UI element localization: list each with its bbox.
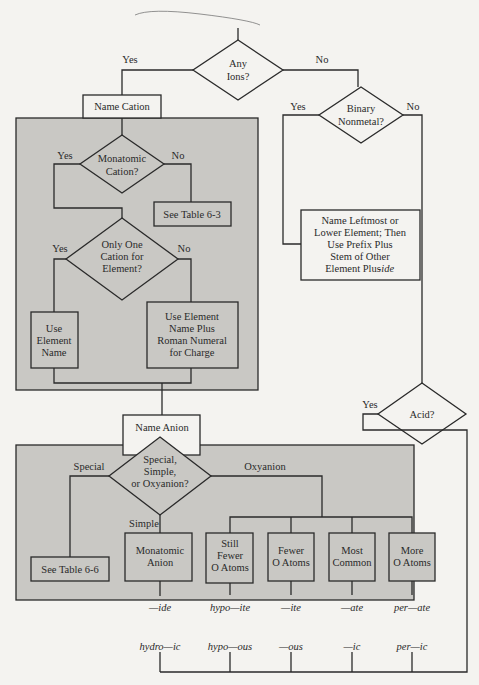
use-element-line-1: Use — [46, 323, 63, 334]
ide-suffix: —ide — [148, 602, 172, 613]
still-fewer-line-1: Still — [221, 538, 239, 549]
ic-acid: —ic — [343, 641, 361, 652]
any-ions-label-1: Any — [229, 58, 248, 69]
leftmost-line-3: Use Prefix Plus — [327, 239, 392, 250]
most-common-line-1: Most — [341, 545, 363, 556]
ate-suffix: —ate — [340, 602, 364, 613]
any-ions-label-2: Ions? — [227, 71, 250, 82]
use-roman-line-4: for Charge — [170, 347, 215, 358]
leftmost-line-5: Element Plus — [325, 263, 381, 274]
name-cation-label: Name Cation — [94, 101, 150, 112]
anion-type-line-1: Special, — [143, 454, 177, 465]
flowchart: Any Ions? Yes No Name Cation Monatomic C… — [0, 0, 479, 685]
monatomic-yes: Yes — [57, 150, 72, 161]
name-anion-label: Name Anion — [135, 422, 189, 433]
only-one-label-2: Cation for — [101, 251, 144, 262]
more-line-2: O Atoms — [393, 557, 431, 568]
use-element-line-2: Element — [37, 335, 72, 346]
hypo-ite-suffix: hypo—ite — [210, 602, 251, 613]
use-roman-line-1: Use Element — [165, 311, 219, 322]
anion-type-line-3: or Oxyanion? — [131, 478, 189, 489]
any-ions-yes: Yes — [122, 54, 137, 65]
binary-nonmetal-decision — [319, 87, 403, 143]
binary-yes: Yes — [290, 101, 305, 112]
ite-suffix: —ite — [280, 602, 301, 613]
use-roman-line-3: Roman Numeral — [157, 335, 227, 346]
monatomic-no: No — [172, 150, 185, 161]
hydro-ic-acid: hydro—ic — [139, 641, 180, 652]
leftmost-ide-suffix: -ide — [378, 263, 395, 274]
only-one-label-1: Only One — [101, 239, 142, 250]
binary-label-1: Binary — [347, 103, 376, 114]
any-ions-decision — [193, 40, 283, 100]
use-element-line-3: Name — [41, 347, 66, 358]
acid-label: Acid? — [409, 409, 434, 420]
only-one-label-3: Element? — [102, 263, 142, 274]
use-roman-line-2: Name Plus — [169, 323, 215, 334]
still-fewer-line-2: Fewer — [217, 550, 244, 561]
simple-label: Simple — [129, 518, 159, 529]
still-fewer-line-3: O Atoms — [211, 562, 249, 573]
acid-yes: Yes — [362, 399, 377, 410]
leftmost-line-4: Stem of Other — [330, 251, 390, 262]
oxyanion-label: Oxyanion — [244, 461, 286, 472]
ous-acid: —ous — [278, 641, 303, 652]
see-table-6-3-label: See Table 6-3 — [163, 209, 220, 220]
only-one-yes: Yes — [52, 243, 67, 254]
monatomic-cation-label-1: Monatomic — [98, 153, 147, 164]
monatomic-cation-label-2: Cation? — [106, 166, 139, 177]
fewer-line-2: O Atoms — [272, 557, 310, 568]
per-ate-suffix: per—ate — [393, 602, 431, 613]
anion-type-line-2: Simple, — [144, 466, 176, 477]
leftmost-line-2: Lower Element; Then — [314, 227, 407, 238]
binary-label-2: Nonmetal? — [338, 116, 384, 127]
binary-no: No — [407, 101, 420, 112]
leftmost-line-1: Name Leftmost or — [322, 215, 399, 226]
see-table-6-6-label: See Table 6-6 — [41, 564, 98, 575]
hypo-ous-acid: hypo—ous — [208, 641, 252, 652]
only-one-no: No — [178, 243, 191, 254]
per-ic-acid: per—ic — [396, 641, 428, 652]
any-ions-no: No — [316, 54, 329, 65]
more-line-1: More — [401, 545, 424, 556]
fewer-line-1: Fewer — [278, 545, 305, 556]
monatomic-anion-line-2: Anion — [147, 557, 174, 568]
monatomic-anion-line-1: Monatomic — [136, 545, 185, 556]
most-common-line-2: Common — [332, 557, 372, 568]
special-label: Special — [74, 461, 105, 472]
